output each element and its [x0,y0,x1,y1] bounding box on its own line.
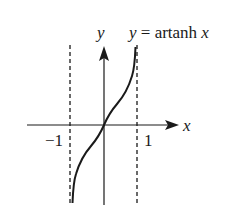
curve-label-x: x [200,23,209,42]
curve-label: y = artanh x [127,23,209,42]
x-axis-label: x [182,116,191,135]
y-axis-label: y [95,23,105,42]
curve-label-eq: = artanh [137,23,202,42]
curve-label-y: y [127,23,137,42]
tick-label-pos1: 1 [144,131,153,150]
tick-label-neg1: −1 [45,131,63,150]
artanh-graph: y y = artanh x x −1 1 [0,0,245,215]
